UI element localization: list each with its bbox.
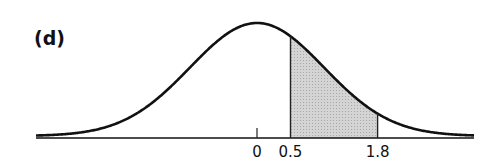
normal-curve [36,23,474,136]
tick-label: 0.5 [279,143,303,161]
normal-curve-chart: 00.51.8 [0,0,495,165]
x-ticks: 00.51.8 [252,143,389,161]
shaded-area [291,36,378,138]
tick-label: 0 [252,143,262,161]
tick-label: 1.8 [366,143,390,161]
